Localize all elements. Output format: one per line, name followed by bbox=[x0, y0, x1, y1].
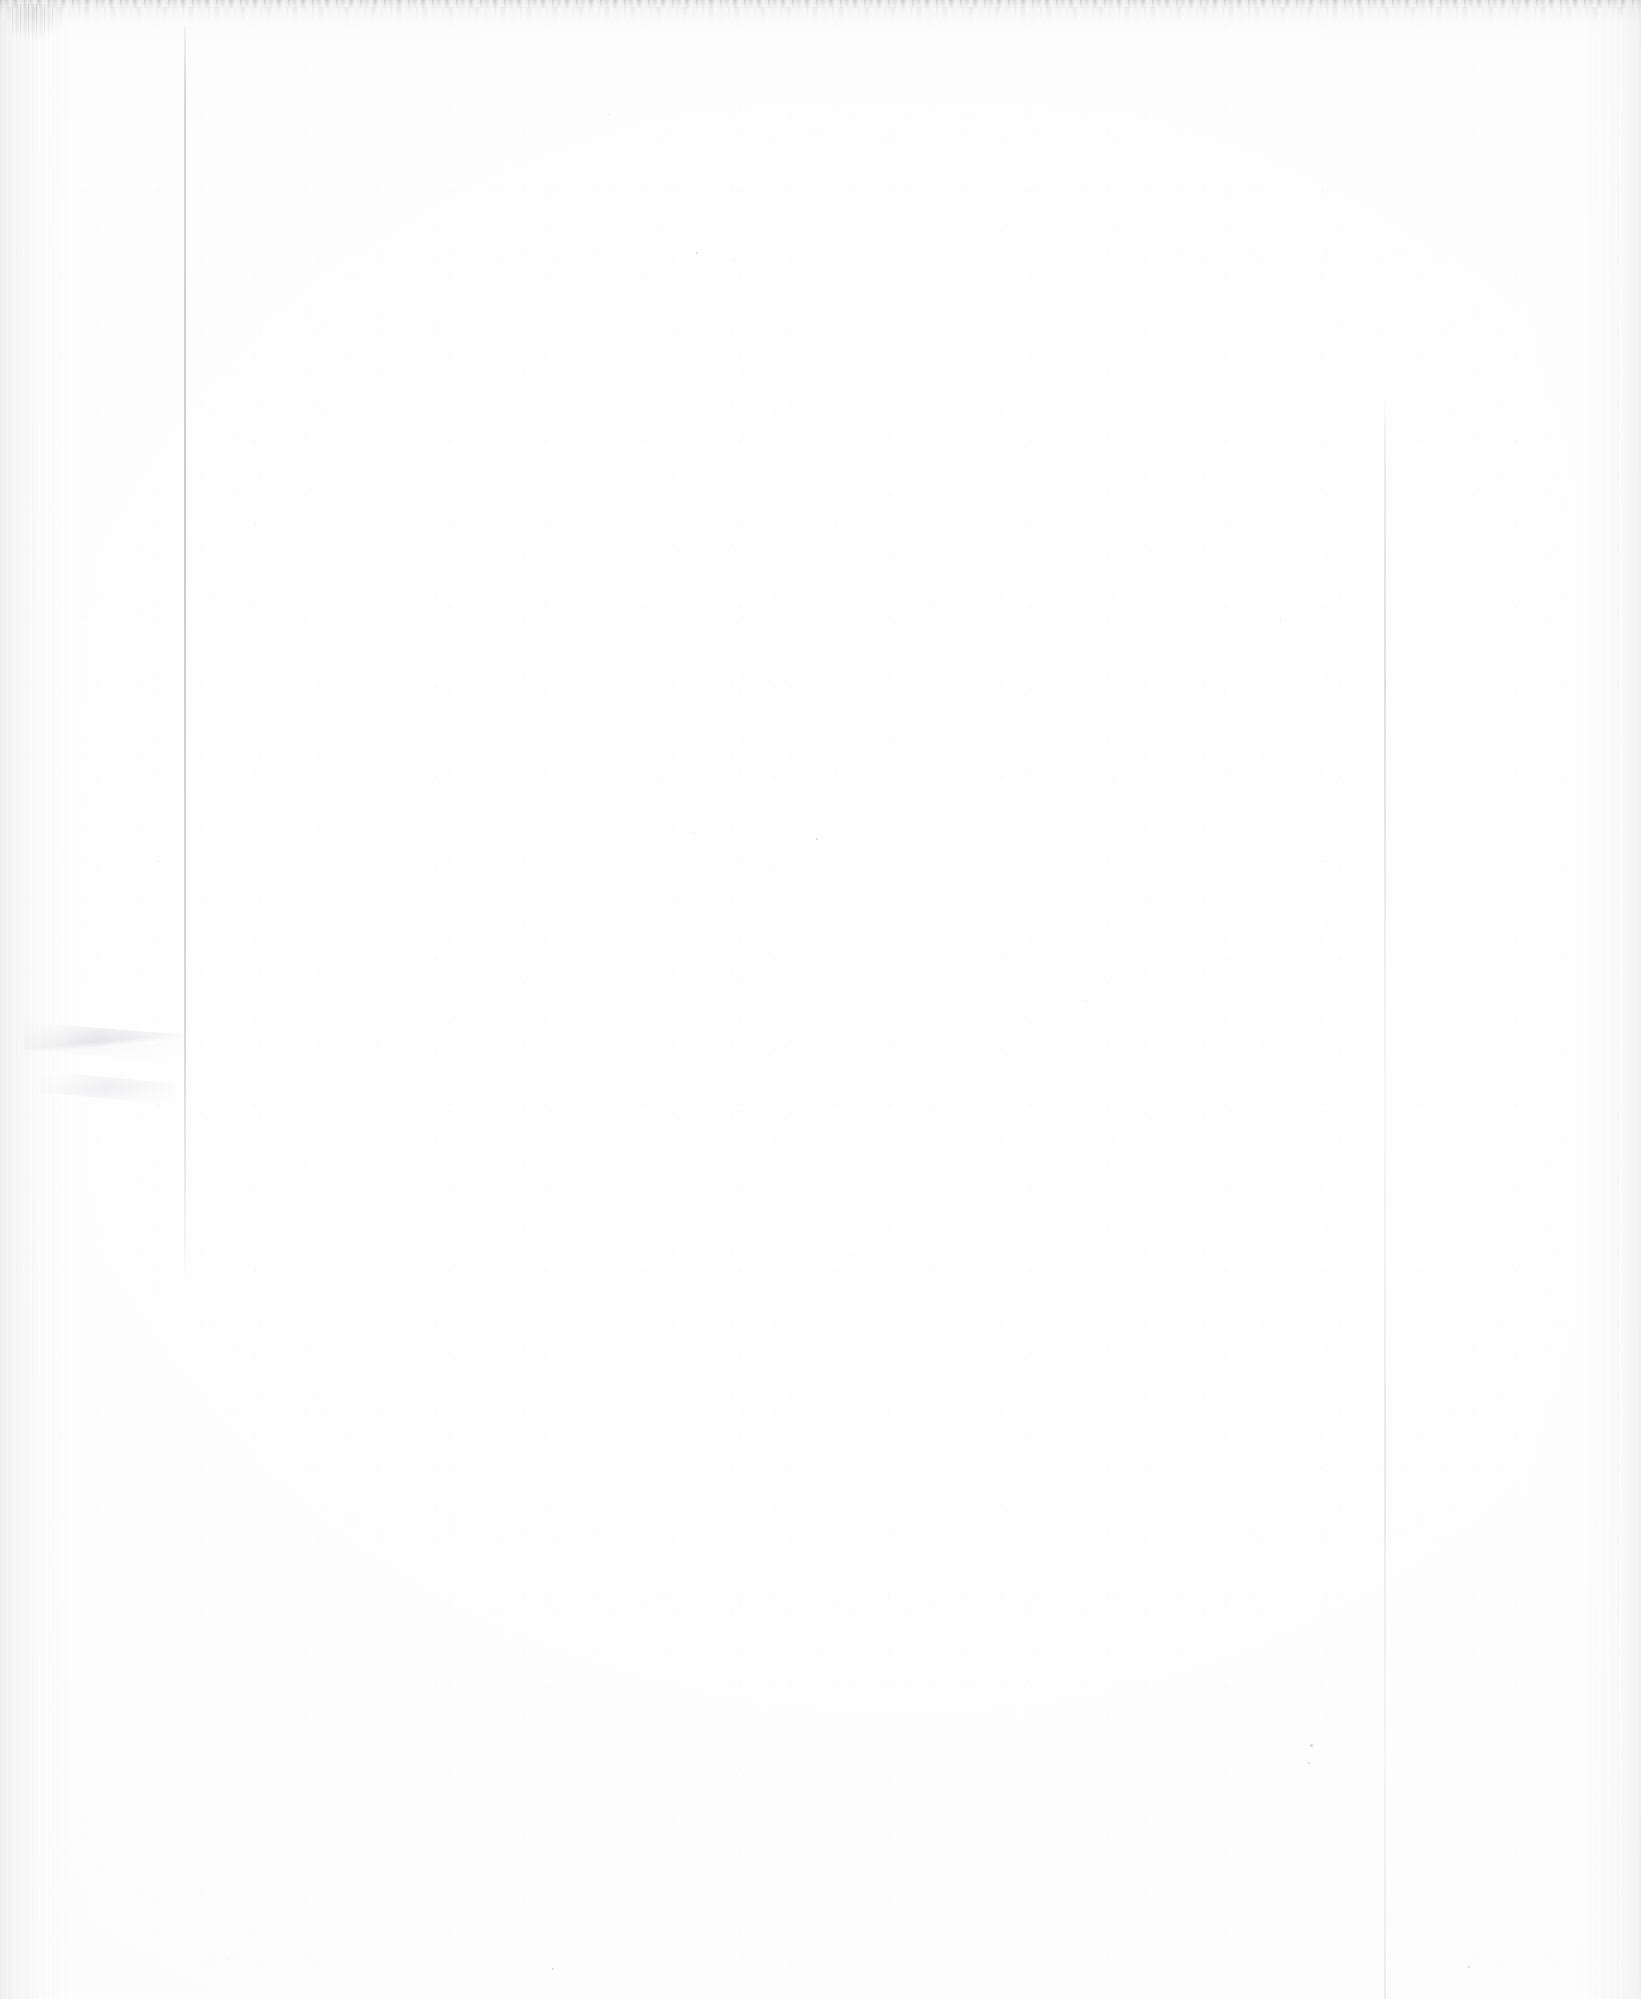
scanned-page: Blank scanned page bbox=[0, 0, 1641, 1999]
paper-background bbox=[0, 0, 1641, 1999]
